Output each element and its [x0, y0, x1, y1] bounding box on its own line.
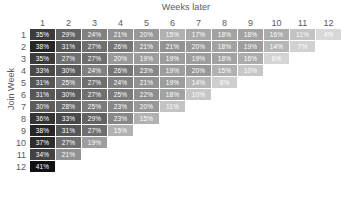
heatmap-cell-empty [290, 101, 315, 112]
heatmap-cell[interactable]: 31% [30, 77, 55, 88]
heatmap-cell[interactable]: 21% [108, 29, 133, 40]
heatmap-cell[interactable]: 7% [290, 41, 315, 52]
heatmap-cell[interactable]: 24% [82, 29, 107, 40]
heatmap-cell[interactable]: 18% [212, 53, 237, 64]
heatmap-cell[interactable]: 24% [108, 77, 133, 88]
heatmap-cell[interactable]: 28% [56, 101, 81, 112]
heatmap-cell-empty [186, 101, 211, 112]
heatmap-cell[interactable]: 11% [290, 29, 315, 40]
heatmap-cell[interactable]: 27% [82, 41, 107, 52]
heatmap-cell[interactable]: 27% [82, 89, 107, 100]
heatmap-cell[interactable]: 37% [30, 137, 55, 148]
heatmap-cell[interactable]: 20% [186, 65, 211, 76]
heatmap-cell-empty [264, 161, 289, 172]
heatmap-table: 123456789101112 135%29%24%21%20%15%17%18… [12, 14, 342, 173]
heatmap-cell-empty [316, 41, 341, 52]
heatmap-cell[interactable]: 36% [30, 113, 55, 124]
heatmap-cell[interactable]: 30% [30, 101, 55, 112]
heatmap-cell[interactable]: 21% [134, 41, 159, 52]
heatmap-cell[interactable]: 18% [212, 29, 237, 40]
heatmap-cell[interactable]: 10% [186, 89, 211, 100]
heatmap-cell[interactable]: 20% [134, 101, 159, 112]
heatmap-cell[interactable]: 15% [212, 65, 237, 76]
heatmap-cell[interactable]: 19% [82, 137, 107, 148]
heatmap-cell[interactable]: 17% [186, 29, 211, 40]
heatmap-cell[interactable]: 33% [30, 65, 55, 76]
heatmap-cell[interactable]: 14% [186, 77, 211, 88]
heatmap-cell[interactable]: 30% [56, 89, 81, 100]
heatmap-cell[interactable]: 20% [186, 41, 211, 52]
heatmap-cell-empty [238, 137, 263, 148]
heatmap-cell[interactable]: 26% [108, 41, 133, 52]
heatmap-cell-empty [316, 65, 341, 76]
heatmap-cell[interactable]: 15% [134, 113, 159, 124]
heatmap-cell[interactable]: 23% [108, 101, 133, 112]
heatmap-cell[interactable]: 11% [160, 101, 185, 112]
heatmap-cell[interactable]: 35% [30, 53, 55, 64]
heatmap-cell[interactable]: 23% [134, 65, 159, 76]
heatmap-cell[interactable]: 38% [30, 125, 55, 136]
heatmap-cell[interactable]: 21% [160, 41, 185, 52]
heatmap-cell[interactable]: 27% [56, 137, 81, 148]
heatmap-cell[interactable]: 23% [108, 113, 133, 124]
heatmap-cell[interactable]: 22% [134, 89, 159, 100]
heatmap-cell-empty [316, 149, 341, 160]
heatmap-cell[interactable]: 19% [160, 77, 185, 88]
heatmap-cell[interactable]: 18% [160, 89, 185, 100]
heatmap-cell[interactable]: 19% [186, 53, 211, 64]
heatmap-cell[interactable]: 29% [82, 113, 107, 124]
heatmap-cell[interactable]: 27% [56, 53, 81, 64]
heatmap-cell[interactable]: 34% [30, 149, 55, 160]
heatmap-cell-empty [108, 149, 133, 160]
heatmap-cell[interactable]: 16% [238, 53, 263, 64]
heatmap-cell-empty [290, 137, 315, 148]
heatmap-cell[interactable]: 10% [238, 65, 263, 76]
column-header-4: 4 [108, 15, 133, 28]
heatmap-cell[interactable]: 31% [56, 41, 81, 52]
heatmap-cell[interactable]: 31% [56, 125, 81, 136]
heatmap-cell[interactable]: 6% [264, 53, 289, 64]
column-header-6: 6 [160, 15, 185, 28]
heatmap-cell[interactable]: 24% [82, 65, 107, 76]
heatmap-cell[interactable]: 33% [56, 113, 81, 124]
heatmap-cell[interactable]: 18% [238, 29, 263, 40]
heatmap-cell[interactable]: 19% [160, 53, 185, 64]
heatmap-cell-empty [82, 149, 107, 160]
heatmap-cell[interactable]: 25% [82, 101, 107, 112]
heatmap-cell[interactable]: 16% [264, 29, 289, 40]
heatmap-cell[interactable]: 15% [108, 125, 133, 136]
heatmap-cell[interactable]: 25% [56, 77, 81, 88]
heatmap-cell-empty [264, 77, 289, 88]
column-header-7: 7 [186, 15, 211, 28]
heatmap-row: 938%31%27%15% [13, 125, 341, 136]
heatmap-cell[interactable]: 25% [108, 89, 133, 100]
heatmap-cell[interactable]: 27% [82, 53, 107, 64]
heatmap-cell[interactable]: 26% [108, 65, 133, 76]
heatmap-cell[interactable]: 14% [264, 41, 289, 52]
heatmap-cell[interactable]: 8% [212, 77, 237, 88]
heatmap-cell-empty [212, 137, 237, 148]
heatmap-cell[interactable]: 21% [56, 149, 81, 160]
heatmap-cell-empty [238, 113, 263, 124]
heatmap-cell[interactable]: 21% [134, 77, 159, 88]
heatmap-cell[interactable]: 4% [316, 29, 341, 40]
heatmap-cell-empty [316, 125, 341, 136]
heatmap-cell[interactable]: 27% [82, 77, 107, 88]
heatmap-cell[interactable]: 35% [30, 29, 55, 40]
x-axis-title: Weeks later [0, 2, 346, 12]
heatmap-cell[interactable]: 19% [134, 53, 159, 64]
heatmap-cell[interactable]: 38% [30, 41, 55, 52]
heatmap-cell[interactable]: 20% [134, 29, 159, 40]
column-header-11: 11 [290, 15, 315, 28]
heatmap-cell[interactable]: 27% [82, 125, 107, 136]
heatmap-cell[interactable]: 30% [56, 65, 81, 76]
heatmap-cell[interactable]: 41% [30, 161, 55, 172]
heatmap-cell[interactable]: 31% [30, 89, 55, 100]
heatmap-cell[interactable]: 19% [238, 41, 263, 52]
heatmap-cell[interactable]: 19% [160, 65, 185, 76]
heatmap-cell[interactable]: 29% [56, 29, 81, 40]
heatmap-cell[interactable]: 15% [160, 29, 185, 40]
heatmap-cell[interactable]: 20% [108, 53, 133, 64]
heatmap-cell-empty [212, 101, 237, 112]
heatmap-cell[interactable]: 18% [212, 41, 237, 52]
